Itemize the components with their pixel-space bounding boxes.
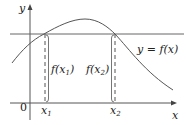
f-x2-label: f(x2) xyxy=(85,63,109,77)
function-diagram: y x 0 x1 x2 f(x1) f(x2) y = f(x) xyxy=(0,0,186,125)
x-axis-arrow-icon xyxy=(171,101,177,106)
curve-label: y = f(x) xyxy=(136,43,178,56)
bracket-f-x2 xyxy=(112,35,115,102)
f-x1-label: f(x1) xyxy=(50,63,74,77)
x-axis-label: x xyxy=(172,109,179,122)
origin-label: 0 xyxy=(20,101,27,114)
x1-label: x1 xyxy=(41,104,52,118)
y-axis-arrow-icon xyxy=(28,4,33,10)
bracket-f-x1 xyxy=(46,35,49,102)
x2-label: x2 xyxy=(110,104,121,118)
y-axis-label: y xyxy=(18,2,26,15)
